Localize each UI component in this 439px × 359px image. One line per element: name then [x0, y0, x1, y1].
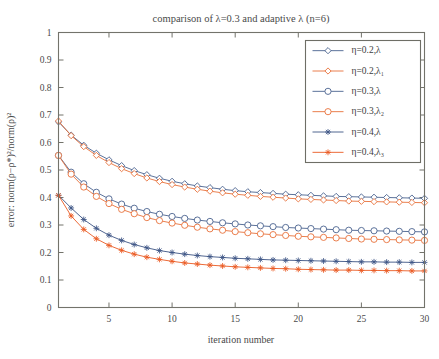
data-point-marker-star	[409, 268, 415, 274]
data-point-marker-star	[119, 247, 125, 253]
data-point-marker-circle	[207, 226, 213, 232]
x-tick-label: 20	[294, 314, 304, 324]
data-point-marker-circle	[346, 235, 352, 241]
data-point-marker-star	[283, 266, 289, 272]
data-point-marker-circle	[194, 224, 200, 230]
data-point-marker-circle	[333, 235, 339, 241]
data-point-marker-star	[232, 264, 238, 270]
data-point-marker-star	[384, 268, 390, 274]
y-tick-label: 0.2	[40, 248, 52, 258]
data-point-marker-star	[182, 251, 188, 257]
y-tick-label: 0.1	[40, 275, 52, 285]
data-point-marker-star	[157, 256, 163, 262]
data-point-marker-circle	[81, 184, 87, 190]
data-point-marker-circle	[333, 227, 339, 233]
data-point-marker-star	[245, 264, 251, 270]
data-point-marker-circle	[396, 228, 402, 234]
data-point-marker-star	[131, 251, 137, 257]
data-point-marker-star	[371, 259, 377, 265]
data-point-marker-star	[157, 248, 163, 254]
data-point-marker-circle	[308, 234, 314, 240]
data-point-marker-star	[194, 253, 200, 259]
data-point-marker-star	[321, 258, 327, 264]
legend-label: η=0.3,λ₂	[352, 106, 385, 116]
data-point-marker-circle	[283, 224, 289, 230]
data-point-marker-circle	[371, 236, 377, 242]
data-point-marker-circle	[156, 211, 162, 217]
data-point-marker-circle	[144, 214, 150, 220]
data-point-marker-circle	[106, 200, 112, 206]
data-point-marker-star	[257, 265, 263, 271]
data-point-marker-circle	[358, 227, 364, 233]
data-point-marker-star	[245, 256, 251, 262]
data-point-marker-circle	[257, 223, 263, 229]
data-point-marker-circle	[93, 193, 99, 199]
data-point-marker-star	[308, 258, 314, 264]
chart-legend[interactable]: η=0.2,λη=0.2,λ₁η=0.3,λη=0.3,λ₂η=0.4,λη=0…	[306, 41, 421, 163]
y-tick-label: 0.8	[40, 83, 52, 93]
data-point-marker-star	[409, 259, 415, 265]
data-point-marker-circle	[384, 228, 390, 234]
data-point-marker-circle	[283, 232, 289, 238]
data-point-marker-circle	[396, 237, 402, 243]
data-point-marker-star	[106, 232, 112, 238]
data-point-marker-circle	[169, 220, 175, 226]
data-point-marker-star	[270, 266, 276, 272]
y-tick-label: 0.4	[40, 193, 52, 203]
data-point-marker-star	[384, 259, 390, 265]
data-point-marker-circle	[295, 225, 301, 231]
data-point-marker-circle	[295, 233, 301, 239]
data-point-marker-circle	[144, 208, 150, 214]
data-point-marker-star	[169, 258, 175, 264]
data-point-marker-star	[333, 258, 339, 264]
data-point-marker-circle	[156, 218, 162, 224]
data-point-marker-star	[232, 255, 238, 261]
y-tick-label: 0.9	[40, 55, 52, 65]
data-point-marker-star	[144, 245, 150, 251]
data-point-marker-star	[346, 267, 352, 273]
data-point-marker-circle	[409, 229, 415, 235]
data-point-marker-star	[119, 237, 125, 243]
data-point-marker-circle	[308, 225, 314, 231]
x-tick-label: 5	[107, 314, 112, 324]
chart-title: comparison of λ=0.3 and adaptive λ (n=6)	[153, 13, 330, 25]
data-point-marker-circle	[182, 222, 188, 228]
data-point-marker-star	[325, 149, 331, 155]
data-point-marker-star	[270, 257, 276, 263]
data-point-marker-star	[194, 261, 200, 267]
data-point-marker-star	[207, 254, 213, 260]
data-point-marker-star	[308, 267, 314, 273]
y-tick-label: 0.5	[40, 165, 52, 175]
y-tick-label: 0.6	[40, 138, 52, 148]
x-tick-label: 25	[357, 314, 367, 324]
y-tick-label: 1	[47, 28, 52, 38]
data-point-marker-circle	[207, 218, 213, 224]
data-point-marker-star	[93, 225, 99, 231]
legend-label: η=0.4,λ₃	[352, 147, 385, 157]
data-point-marker-star	[207, 262, 213, 268]
data-point-marker-circle	[270, 224, 276, 230]
data-point-marker-circle	[346, 227, 352, 233]
data-point-marker-star	[81, 226, 87, 232]
data-point-marker-star	[321, 267, 327, 273]
data-point-marker-circle	[232, 229, 238, 235]
data-point-marker-star	[325, 129, 331, 135]
legend-label: η=0.4,λ	[352, 127, 382, 137]
data-point-marker-circle	[194, 217, 200, 223]
data-point-marker-star	[346, 259, 352, 265]
data-point-marker-circle	[169, 213, 175, 219]
data-point-marker-circle	[320, 234, 326, 240]
data-point-marker-star	[68, 213, 74, 219]
data-point-marker-star	[396, 268, 402, 274]
legend-label: η=0.2,λ	[352, 45, 382, 55]
data-point-marker-circle	[358, 236, 364, 242]
data-point-marker-star	[358, 267, 364, 273]
legend-label: η=0.2,λ₁	[352, 66, 385, 76]
data-point-marker-circle	[219, 227, 225, 233]
chart-figure: comparison of λ=0.3 and adaptive λ (n=6)…	[0, 0, 439, 359]
data-point-marker-star	[81, 217, 87, 223]
data-point-marker-circle	[384, 236, 390, 242]
data-point-marker-star	[295, 258, 301, 264]
data-point-marker-circle	[325, 88, 331, 94]
data-point-marker-circle	[409, 237, 415, 243]
